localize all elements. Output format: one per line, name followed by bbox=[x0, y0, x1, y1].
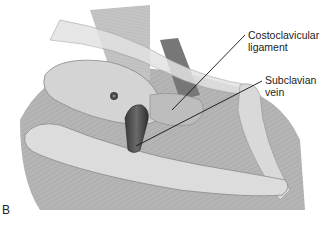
costoclavicular-ligament bbox=[150, 93, 203, 125]
label-costoclavicular-ligament: Costoclavicular ligament bbox=[248, 29, 319, 53]
label-subclavian-vein: Subclavian vein bbox=[265, 74, 316, 98]
panel-letter: B bbox=[2, 203, 10, 217]
